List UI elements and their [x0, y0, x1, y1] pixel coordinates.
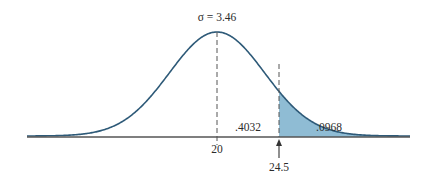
region-label-0968: .0968	[316, 121, 342, 133]
sigma-label: σ = 3.46	[198, 11, 237, 23]
shaded-tail-region	[279, 91, 410, 137]
cutoff-arrow-icon	[276, 139, 282, 146]
normal-curve	[27, 32, 410, 136]
tick-label-cutoff: 24.5	[269, 161, 289, 173]
region-label-4032: .4032	[235, 121, 261, 133]
tick-label-mean: 20	[211, 143, 223, 155]
normal-curve-chart: σ = 3.46 .4032 .0968 20 24.5	[0, 0, 432, 179]
